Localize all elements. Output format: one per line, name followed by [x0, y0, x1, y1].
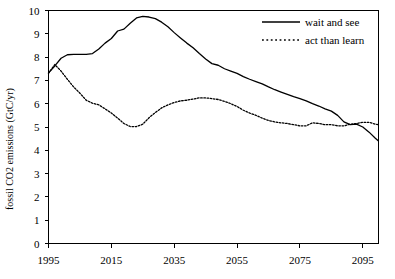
x-tick-label: 2035	[163, 254, 186, 266]
x-tick-label: 2075	[289, 254, 312, 266]
x-tick-label: 1995	[38, 254, 61, 266]
x-tick-label: 2055	[226, 254, 249, 266]
y-tick-label: 5	[34, 121, 40, 133]
y-axis-title: fossil CO2 emissions (GtC/yr)	[4, 88, 16, 210]
x-axis-tick-labels: 199520152035205520752095	[38, 254, 375, 266]
legend-label-wait-and-see: wait and see	[305, 16, 359, 28]
emissions-line-chart: fossil CO2 emissions (GtC/yr) 0123456789…	[0, 0, 395, 279]
series-line-act-than-learn	[49, 65, 379, 127]
y-tick-label: 2	[34, 191, 40, 203]
legend: wait and see act than learn	[262, 16, 365, 46]
x-tick-label: 2015	[100, 254, 123, 266]
legend-label-act-than-learn: act than learn	[305, 34, 365, 46]
y-tick-label: 6	[34, 98, 40, 110]
y-tick-label: 3	[34, 168, 40, 180]
y-tick-label: 10	[29, 5, 41, 17]
x-tick-label: 2095	[352, 254, 375, 266]
y-axis-title-label: fossil CO2 emissions (GtC/yr)	[4, 88, 16, 210]
y-tick-label: 4	[34, 144, 40, 156]
y-tick-label: 0	[34, 238, 40, 250]
y-tick-label: 8	[34, 51, 40, 63]
y-tick-label: 9	[34, 28, 40, 40]
y-tick-label: 7	[34, 74, 40, 86]
chart-figure: fossil CO2 emissions (GtC/yr) 0123456789…	[0, 0, 395, 279]
y-axis-tick-labels: 012345678910	[29, 5, 41, 250]
y-tick-label: 1	[34, 214, 40, 226]
